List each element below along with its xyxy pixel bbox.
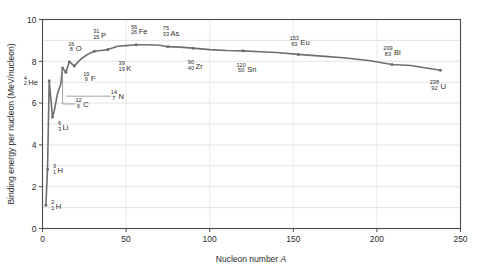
nuclide-atomic-number: 6 — [77, 103, 80, 109]
data-point-marker — [166, 45, 169, 48]
nuclide-atomic-number: 9 — [85, 76, 88, 82]
nuclide-symbol: Zr — [196, 62, 204, 71]
y-tick-label: 10 — [27, 15, 37, 25]
nuclide-atomic-number: 33 — [163, 31, 169, 37]
nuclide-symbol: O — [76, 44, 82, 53]
nuclide-atomic-number: 40 — [188, 65, 194, 71]
nuclide-symbol: F — [91, 74, 96, 83]
data-point-marker — [135, 43, 138, 46]
x-tick-label: 200 — [370, 234, 384, 244]
data-point-marker — [93, 50, 96, 53]
nuclide-symbol: Eu — [300, 38, 309, 47]
nuclide-symbol: U — [440, 82, 445, 91]
x-axis-title: Nucleon number A — [216, 254, 287, 264]
nuclide-atomic-number: 83 — [385, 51, 391, 57]
data-point-marker — [439, 69, 442, 72]
x-tick-label: 150 — [286, 234, 300, 244]
data-point-marker — [44, 204, 47, 207]
nuclide-atomic-number: 7 — [112, 95, 115, 101]
y-tick-label: 2 — [32, 182, 37, 192]
nuclide-symbol: Sn — [247, 65, 256, 74]
nuclide-symbol: Fe — [139, 27, 148, 36]
nuclide-atomic-number: 1 — [51, 205, 54, 211]
nuclide-atomic-number: 19 — [119, 66, 125, 72]
data-point-marker — [106, 48, 109, 51]
x-axis-title-text: Nucleon number — [216, 254, 281, 264]
data-point-marker — [390, 63, 393, 66]
nuclide-symbol: C — [83, 100, 89, 109]
x-tick-label: 50 — [121, 234, 131, 244]
x-tick-label: 100 — [203, 234, 217, 244]
chart-svg: 050100150200250 0246810 21H31H63Li42He12… — [0, 0, 483, 277]
nuclide-symbol: H — [56, 202, 61, 211]
data-point-marker — [191, 47, 194, 50]
nuclide-symbol: He — [28, 78, 38, 87]
nuclide-symbol: P — [101, 31, 106, 40]
data-point-marker — [51, 116, 54, 119]
nuclide-atomic-number: 63 — [291, 41, 297, 47]
nuclide-atomic-number: 26 — [131, 29, 137, 35]
y-tick-label: 6 — [32, 98, 37, 108]
nuclide-atomic-number: 15 — [93, 34, 99, 40]
data-point-marker — [297, 53, 300, 56]
y-axis-title: Binding energy per nucleon (MeV/nucleon) — [6, 43, 16, 204]
nuclide-symbol: Li — [63, 123, 69, 132]
nuclide-atomic-number: 1 — [53, 169, 56, 175]
nuclide-symbol: As — [171, 29, 180, 38]
data-point-marker — [68, 60, 71, 63]
x-tick-label: 250 — [453, 234, 467, 244]
nuclide-symbol: K — [126, 64, 131, 73]
nuclide-symbol: N — [119, 92, 124, 101]
nuclide-atomic-number: 2 — [24, 80, 27, 86]
y-tick-label: 8 — [32, 57, 37, 67]
nuclide-atomic-number: 92 — [431, 85, 437, 91]
y-tick-label: 4 — [32, 140, 37, 150]
data-point-marker — [46, 168, 49, 171]
data-point-marker — [64, 71, 67, 74]
binding-energy-chart: 050100150200250 0246810 21H31H63Li42He12… — [0, 0, 483, 277]
data-point-marker — [242, 49, 245, 52]
nuclide-symbol: Bi — [394, 48, 401, 57]
data-point-marker — [73, 64, 76, 67]
nuclide-atomic-number: 3 — [58, 126, 61, 132]
x-tick-label: 0 — [40, 234, 45, 244]
x-axis-title-symbol: A — [280, 254, 287, 264]
nuclide-symbol: H — [58, 166, 63, 175]
nuclide-atomic-number: 50 — [238, 67, 244, 73]
data-point-marker — [48, 79, 51, 82]
nuclide-atomic-number: 8 — [70, 46, 73, 52]
y-tick-label: 0 — [32, 224, 37, 234]
